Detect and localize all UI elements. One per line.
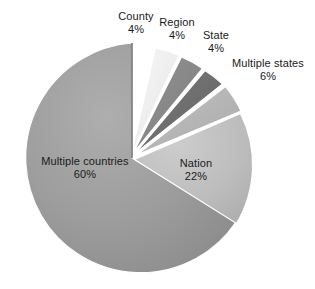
pie-label-state-value: 4%	[194, 42, 238, 55]
pie-label-multiple-states-value: 6%	[222, 70, 314, 83]
pie-label-state-name: State	[194, 29, 238, 42]
pie-svg	[0, 0, 315, 289]
pie-label-nation: Nation 22%	[168, 157, 224, 182]
pie-label-nation-value: 22%	[168, 170, 224, 183]
pie-chart: County 4% Region 4% State 4% Multiple st…	[0, 0, 315, 289]
pie-label-multiple-countries: Multiple countries 60%	[24, 155, 146, 180]
pie-label-multiple-states: Multiple states 6%	[222, 57, 314, 82]
pie-label-region-name: Region	[152, 16, 202, 29]
pie-label-multiple-states-name: Multiple states	[222, 57, 314, 70]
pie-label-nation-name: Nation	[168, 157, 224, 170]
pie-label-multiple-countries-value: 60%	[24, 168, 146, 181]
pie-label-state: State 4%	[194, 29, 238, 54]
pie-label-multiple-countries-name: Multiple countries	[24, 155, 146, 168]
